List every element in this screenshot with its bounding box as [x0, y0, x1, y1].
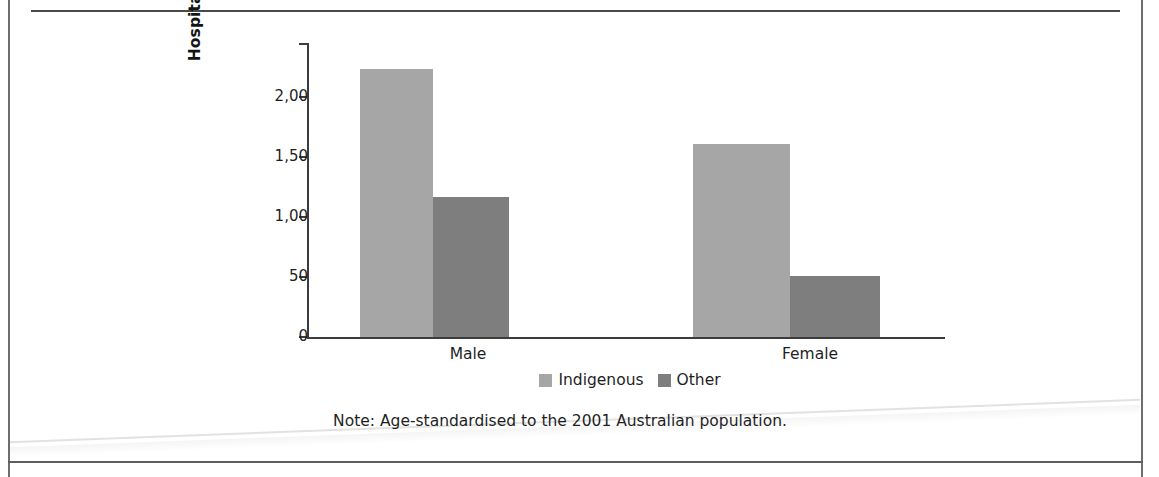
x-axis-label-male: Male	[408, 345, 528, 363]
y-axis-tick-label: 1,00	[225, 209, 308, 224]
y-axis-tick-label: 50	[225, 269, 308, 284]
y-axis-tick-label: 2,00	[225, 89, 308, 104]
chart-legend: IndigenousOther	[460, 370, 800, 390]
legend-swatch-icon	[658, 374, 671, 387]
x-axis-label-female: Female	[750, 345, 870, 363]
bar-chart-figure: Hospitalisations per 100,000 population …	[0, 0, 1159, 477]
y-axis-tick-label-text: 50	[246, 269, 308, 284]
y-axis-tick-label-text: 0	[246, 329, 308, 344]
chart-note: Note: Age-standardised to the 2001 Austr…	[0, 412, 1120, 430]
legend-item-other: Other	[658, 372, 721, 388]
y-axis-title: Hospitalisations per 100,000 population	[183, 0, 227, 84]
y-axis-tick-label-text: 1,00	[246, 209, 308, 224]
y-axis-tick-label: 1,50	[225, 149, 308, 164]
bar-female-indigenous	[693, 144, 790, 337]
legend-label-text: Other	[677, 372, 721, 388]
bar-female-other	[790, 276, 880, 337]
y-axis-tick-label-text: 2,00	[246, 89, 308, 104]
legend-swatch-icon	[539, 374, 552, 387]
legend-item-indigenous: Indigenous	[539, 372, 643, 388]
bar-male-indigenous	[360, 69, 433, 337]
bar-male-other	[433, 197, 509, 337]
plot-area	[309, 43, 945, 337]
y-axis-tick-label-text: 1,50	[246, 149, 308, 164]
x-axis-line	[307, 337, 945, 339]
y-axis-title-text: Hospitalisations per 100,000 population	[186, 0, 224, 61]
legend-label-text: Indigenous	[558, 372, 643, 388]
y-axis-tick-label: 0	[225, 329, 308, 344]
